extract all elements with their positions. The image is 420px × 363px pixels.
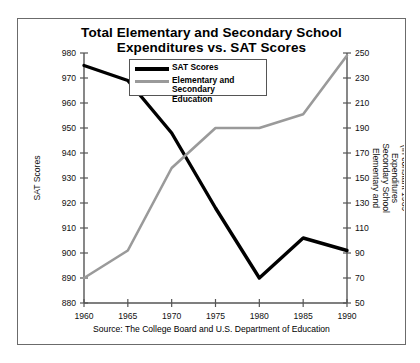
legend-label-expenditures-line-1: Elementary and Secondary bbox=[172, 75, 234, 95]
left-axis-tick-label: 890 bbox=[62, 273, 77, 283]
x-axis-tick-label: 1990 bbox=[337, 311, 356, 321]
right-axis-tick-label: 150 bbox=[355, 173, 370, 183]
right-axis-tick-label: 130 bbox=[355, 198, 370, 208]
chart-figure-border: Total Elementary and Secondary School Ex… bbox=[17, 18, 406, 345]
legend-item-expenditures: Elementary and Secondary Education bbox=[130, 73, 266, 105]
x-axis-tick-label: 1980 bbox=[250, 311, 269, 321]
x-axis-tick-label: 1975 bbox=[206, 311, 225, 321]
left-axis-tick-label: 920 bbox=[62, 198, 77, 208]
legend-swatch-expenditures bbox=[135, 80, 169, 83]
left-axis-tick-label: 960 bbox=[62, 98, 77, 108]
legend-label-expenditures: Elementary and Secondary Education bbox=[169, 76, 262, 105]
left-axis-tick-label: 980 bbox=[62, 48, 77, 58]
right-axis-tick-label: 90 bbox=[355, 248, 365, 258]
right-axis-tick-label: 210 bbox=[355, 98, 370, 108]
x-axis-tick-label: 1985 bbox=[294, 311, 313, 321]
right-axis-tick-label: 190 bbox=[355, 123, 370, 133]
left-axis-tick-label: 910 bbox=[62, 223, 77, 233]
right-axis-tick-label: 70 bbox=[355, 273, 365, 283]
left-axis-tick-label: 950 bbox=[62, 123, 77, 133]
right-axis-tick-label: 170 bbox=[355, 148, 370, 158]
legend-swatch-sat-scores bbox=[135, 67, 169, 71]
chart-source-note: Source: The College Board and U.S. Depar… bbox=[18, 324, 405, 334]
x-axis-tick-label: 1970 bbox=[162, 311, 181, 321]
left-axis-tick-label: 880 bbox=[62, 298, 77, 308]
right-axis-title-line: Secondary School bbox=[381, 143, 391, 213]
right-axis-title-line: Expenditures bbox=[390, 153, 400, 203]
right-axis-tick-label: 230 bbox=[355, 73, 370, 83]
chart-legend: SAT Scores Elementary and Secondary Educ… bbox=[129, 59, 267, 96]
left-axis-tick-label: 900 bbox=[62, 248, 77, 258]
x-axis-tick-label: 1965 bbox=[118, 311, 137, 321]
right-axis-title-line: Elementary and bbox=[371, 148, 381, 208]
legend-item-sat-scores: SAT Scores bbox=[130, 60, 266, 73]
right-axis-tick-label: 110 bbox=[355, 223, 369, 233]
left-axis-title: SAT Scores bbox=[32, 155, 42, 200]
left-axis-tick-label: 970 bbox=[62, 73, 77, 83]
right-axis-tick-label: 250 bbox=[355, 48, 370, 58]
legend-label-expenditures-line-2: Education bbox=[172, 94, 212, 104]
x-axis-tick-label: 1960 bbox=[74, 311, 93, 321]
right-axis-tick-label: 50 bbox=[355, 298, 365, 308]
legend-label-sat-scores: SAT Scores bbox=[169, 63, 218, 73]
left-axis-tick-label: 930 bbox=[62, 173, 77, 183]
left-axis-tick-label: 940 bbox=[62, 148, 77, 158]
right-axis-title-line: (In constant 1989 bbox=[400, 145, 405, 212]
